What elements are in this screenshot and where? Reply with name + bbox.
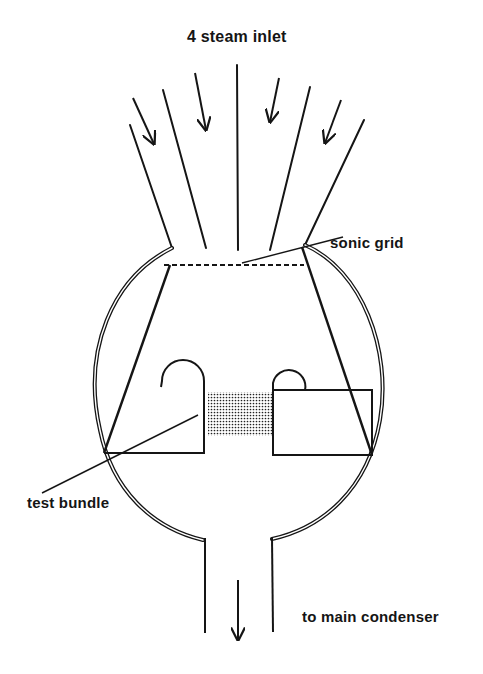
inlet-wall-3: [237, 65, 238, 250]
inlet-wall-4: [270, 87, 310, 250]
sonic-grid-label: sonic grid: [330, 234, 404, 251]
vessel-right-wall: [272, 245, 383, 539]
inlet-arrow-icon-4: [325, 100, 341, 143]
right-baffle-rect: [273, 390, 372, 455]
inlet-wall-1: [130, 125, 172, 248]
outlet-label: to main condenser: [302, 608, 439, 625]
duct-wall-2: [302, 247, 372, 455]
test-bundle-label: test bundle: [27, 494, 109, 511]
steam-condenser-test-diagram: [0, 0, 483, 674]
outlet-pipe-wall-2: [272, 538, 273, 632]
inlet-wall-5: [305, 120, 364, 245]
inlet-arrow-icon-1: [133, 98, 154, 144]
inlet-label: 4 steam inlet: [187, 28, 287, 46]
vessel-left-wall: [95, 248, 203, 540]
duct-wall-1: [104, 265, 170, 453]
steam-inlet-channels: [130, 65, 364, 250]
vessel-right-wall-gap: [272, 245, 383, 539]
right-baffle-dome: [273, 370, 305, 390]
inlet-arrow-icon-3: [270, 78, 279, 122]
inlet-arrow-icon-2: [195, 73, 206, 130]
inlet-wall-2: [163, 90, 206, 248]
left-baffle-block: [104, 360, 204, 453]
test-bundle: [208, 392, 272, 436]
vessel-left-wall-gap: [95, 248, 203, 540]
